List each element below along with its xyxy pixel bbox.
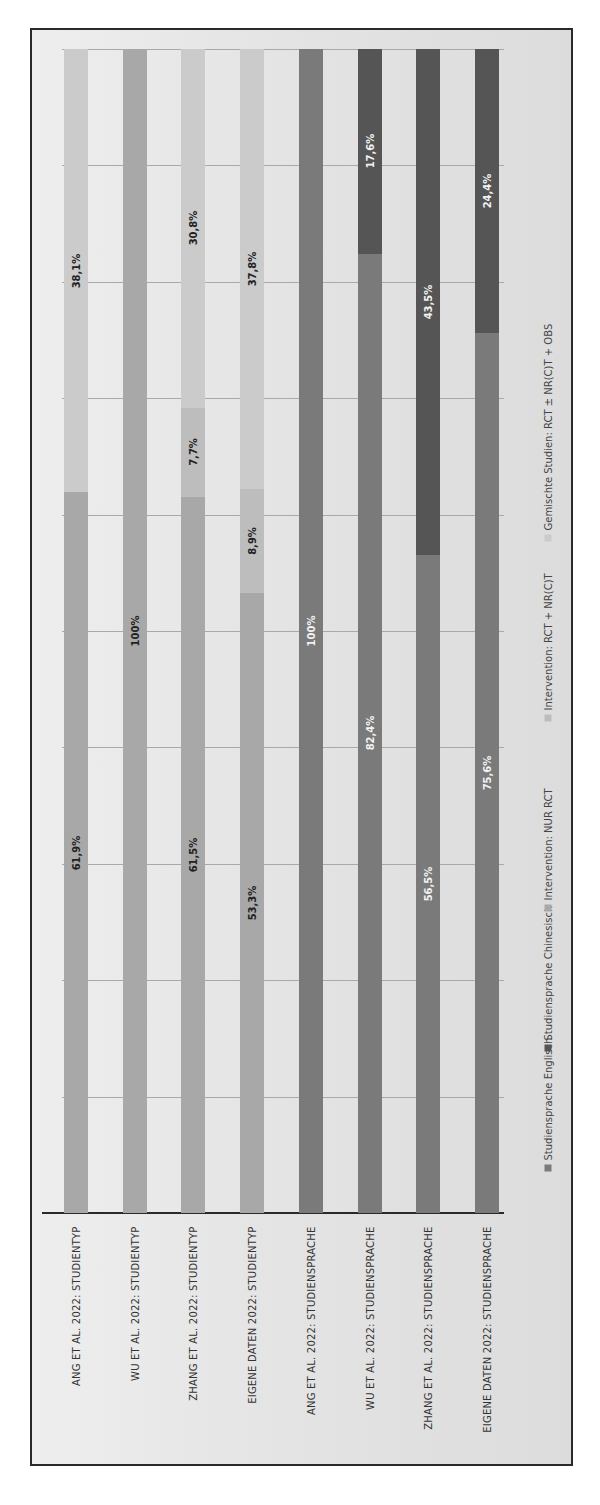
category-label: ANG ET AL. 2022: STUDIENTYP <box>71 1227 82 1387</box>
data-label: 61,9% <box>71 835 82 870</box>
category-label: EIGENE DATEN 2022: STUDIENTYP <box>247 1227 258 1404</box>
data-label: 8,9% <box>247 527 258 555</box>
legend-swatch-icon <box>545 715 552 722</box>
data-label: 38,1% <box>71 253 82 288</box>
bar-4 <box>240 49 264 1213</box>
legend-swatch-icon <box>545 535 552 542</box>
data-label: 17,6% <box>365 134 376 169</box>
category-label: ZHANG ET AL. 2022: STUDIENTYP <box>188 1227 199 1401</box>
bar-7 <box>416 49 440 1213</box>
category-label: WU ET AL. 2022: STUDIENTYP <box>130 1227 141 1381</box>
legend-label: Studiensprache Chinesisch <box>543 906 554 1041</box>
bar-8 <box>475 49 499 1213</box>
legend-entry: Gemischte Studien: RCT ± NR(C)T + OBS <box>543 324 554 542</box>
data-label: 37,8% <box>247 252 258 287</box>
category-label: ZHANG ET AL. 2022: STUDIENSPRACHE <box>423 1227 434 1430</box>
data-label: 7,7% <box>188 438 199 466</box>
legend-entry: Studiensprache Englisch <box>543 1038 554 1172</box>
data-label: 61,5% <box>188 838 199 873</box>
data-label: 30,8% <box>188 211 199 246</box>
data-label: 75,6% <box>482 756 493 791</box>
data-label: 100% <box>130 616 141 647</box>
legend-swatch-icon <box>545 905 552 912</box>
data-label: 100% <box>306 616 317 647</box>
bar-6 <box>358 49 382 1213</box>
legend-entry: Intervention: RCT + NR(C)T <box>543 573 554 721</box>
data-label: 24,4% <box>482 174 493 209</box>
data-label: 53,3% <box>247 885 258 920</box>
legend-label: Intervention: RCT + NR(C)T <box>543 573 554 710</box>
data-label: 56,5% <box>423 867 434 902</box>
data-label: 43,5% <box>423 285 434 320</box>
legend-label: Gemischte Studien: RCT ± NR(C)T + OBS <box>543 324 554 531</box>
legend-swatch-icon <box>545 1165 552 1172</box>
category-label: EIGENE DATEN 2022: STUDIENSPRACHE <box>482 1227 493 1433</box>
category-label: ANG ET AL. 2022: STUDIENSPRACHE <box>306 1227 317 1415</box>
chart-plot-area: 61,9%38,1%ANG ET AL. 2022: STUDIENTYP100… <box>0 0 600 1505</box>
legend-entry: Studiensprache Chinesisch <box>543 906 554 1052</box>
legend-entry: Intervention: NUR RCT <box>543 788 554 911</box>
legend-swatch-icon <box>545 1045 552 1052</box>
legend-label: Intervention: NUR RCT <box>543 788 554 900</box>
legend-label: Studiensprache Englisch <box>543 1038 554 1161</box>
data-label: 82,4% <box>365 716 376 751</box>
category-label: WU ET AL. 2022: STUDIENSPRACHE <box>365 1227 376 1410</box>
bar-1 <box>64 49 88 1213</box>
